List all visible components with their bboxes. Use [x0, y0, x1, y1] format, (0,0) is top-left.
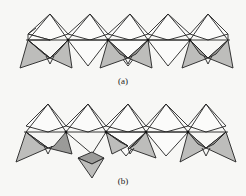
displaced-tetrahedron-b: [78, 152, 104, 178]
tetrahedra-pair-1-b: [16, 132, 72, 162]
tetrahedra-pair-1-a: [20, 40, 72, 68]
tetrahedra-pair-3-a: [182, 40, 233, 68]
figure-panel-a: (a): [0, 0, 246, 96]
caption-b: (b): [0, 176, 246, 186]
tetrahedra-pair-3-b: [180, 132, 236, 162]
figure-panel-b: (b): [0, 96, 246, 196]
caption-a: (a): [0, 76, 246, 86]
